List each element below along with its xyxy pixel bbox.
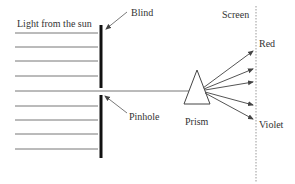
- blind-label: Blind: [131, 7, 153, 18]
- pinhole-label: Pinhole: [129, 111, 160, 122]
- dispersed-ray-red: [203, 51, 253, 88]
- prism-label: Prism: [185, 116, 209, 127]
- sunlight-rays: [15, 33, 192, 149]
- blind-pointer: [106, 12, 127, 29]
- prism-diagram: Light from the sun Blind Pinhole Prism S…: [0, 0, 295, 184]
- pinhole-pointer: [105, 96, 127, 113]
- light-source-label: Light from the sun: [17, 18, 92, 29]
- dispersed-ray-violet: [205, 93, 253, 119]
- red-label: Red: [259, 38, 275, 49]
- violet-label: Violet: [259, 119, 284, 130]
- dispersed-ray: [205, 92, 253, 105]
- prism-shape: [184, 70, 210, 104]
- screen-label: Screen: [222, 9, 249, 20]
- dispersed-rays: [203, 51, 253, 119]
